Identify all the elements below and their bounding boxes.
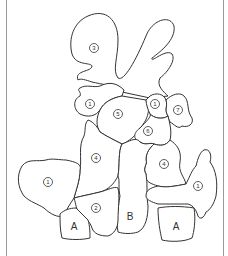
label-B: B — [127, 211, 134, 222]
badge-3: 3 — [90, 44, 99, 53]
badge-2: 2 — [92, 204, 101, 213]
badge-5: 5 — [114, 110, 123, 119]
badge-4-left: 4 — [92, 154, 101, 163]
badge-1-upper-left: 1 — [86, 100, 95, 109]
badge-7: 7 — [174, 106, 183, 115]
badge-1-left: 1 — [44, 178, 53, 187]
badge-1-upper-right: 1 — [151, 100, 160, 109]
badge-4-right: 4 — [160, 160, 169, 169]
label-A-right: A — [173, 221, 180, 232]
badge-1-right: 1 — [194, 182, 203, 191]
label-A-left: A — [71, 221, 78, 232]
region-3[interactable] — [71, 13, 174, 98]
badge-6: 6 — [144, 127, 153, 136]
plant-diagram: 3 1 5 1 7 6 4 4 1 1 2 B A A — [0, 0, 228, 256]
